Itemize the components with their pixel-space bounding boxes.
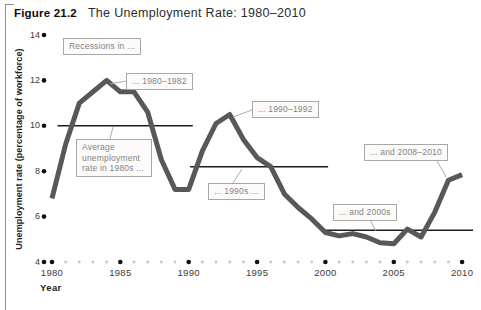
x-tick-label: 1980 (35, 267, 69, 278)
recession-2008-2010-leader-line (437, 161, 446, 177)
year-minor-tick-dot (133, 261, 136, 264)
y-tick-label: 14 (22, 30, 40, 40)
avg-1980s-label-leader-line (110, 127, 113, 139)
year-minor-tick-dot (64, 261, 67, 264)
year-minor-tick-dot (174, 261, 177, 264)
year-minor-tick-dot (269, 261, 272, 264)
year-tick-dot (460, 260, 465, 265)
annotation-recession-1980-1982: ... 1980–1982 (126, 73, 193, 90)
annotation-avg-2000s-label: ... and 2000s (333, 204, 397, 221)
annotation-recession-1990-1992: ... 1990–1992 (252, 101, 319, 118)
x-tick-label: 1995 (240, 267, 274, 278)
y-tick-label: 8 (22, 166, 40, 176)
year-tick-dot (50, 260, 55, 265)
year-minor-tick-dot (420, 261, 423, 264)
y-tick-label: 6 (22, 211, 40, 221)
year-minor-tick-dot (406, 261, 409, 264)
y-tick-dot (42, 78, 47, 83)
year-minor-tick-dot (283, 261, 286, 264)
annotation-recessions-header: Recessions in ... (63, 38, 141, 55)
y-tick-dot (42, 33, 47, 38)
year-minor-tick-dot (215, 261, 218, 264)
year-minor-tick-dot (201, 261, 204, 264)
y-tick-label: 10 (22, 120, 40, 130)
year-minor-tick-dot (78, 261, 81, 264)
year-minor-tick-dot (433, 261, 436, 264)
y-tick-dot (42, 260, 47, 265)
year-minor-tick-dot (447, 261, 450, 264)
x-tick-label: 2005 (377, 267, 411, 278)
x-tick-label: 2000 (308, 267, 342, 278)
year-minor-tick-dot (92, 261, 95, 264)
avg-1990s-label-leader-line (233, 169, 242, 183)
annotation-avg-1980s-label: Average unemployment rate in 1980s ... (76, 139, 152, 177)
y-tick-dot (42, 214, 47, 219)
year-minor-tick-dot (365, 261, 368, 264)
year-minor-tick-dot (379, 261, 382, 264)
x-tick-label: 1990 (172, 267, 206, 278)
x-axis-title: Year (40, 282, 62, 293)
recession-1990-1992-leader-line (233, 110, 252, 117)
y-tick-label: 12 (22, 75, 40, 85)
year-minor-tick-dot (160, 261, 163, 264)
year-minor-tick-dot (242, 261, 245, 264)
x-tick-label: 2010 (445, 267, 479, 278)
annotation-recession-2008-2010: ... and 2008–2010 (364, 144, 448, 161)
y-tick-dot (42, 124, 47, 129)
year-minor-tick-dot (228, 261, 231, 264)
year-minor-tick-dot (338, 261, 341, 264)
year-minor-tick-dot (146, 261, 149, 264)
year-minor-tick-dot (351, 261, 354, 264)
y-axis-title: Unemployment rate (percentage of workfor… (14, 30, 24, 268)
year-minor-tick-dot (310, 261, 313, 264)
y-tick-dot (42, 169, 47, 174)
x-tick-label: 1985 (103, 267, 137, 278)
year-minor-tick-dot (297, 261, 300, 264)
year-minor-tick-dot (105, 261, 108, 264)
year-tick-dot (392, 260, 397, 265)
year-tick-dot (255, 260, 260, 265)
year-tick-dot (118, 260, 123, 265)
year-tick-dot (323, 260, 328, 265)
annotation-avg-1990s-label: ... 1990s ... (208, 183, 265, 200)
avg-2000s-label-leader-line (370, 220, 376, 231)
y-tick-label: 4 (22, 257, 40, 267)
year-tick-dot (186, 260, 191, 265)
figure-panel: Figure 21.2 The Unemployment Rate: 1980–… (0, 0, 481, 310)
